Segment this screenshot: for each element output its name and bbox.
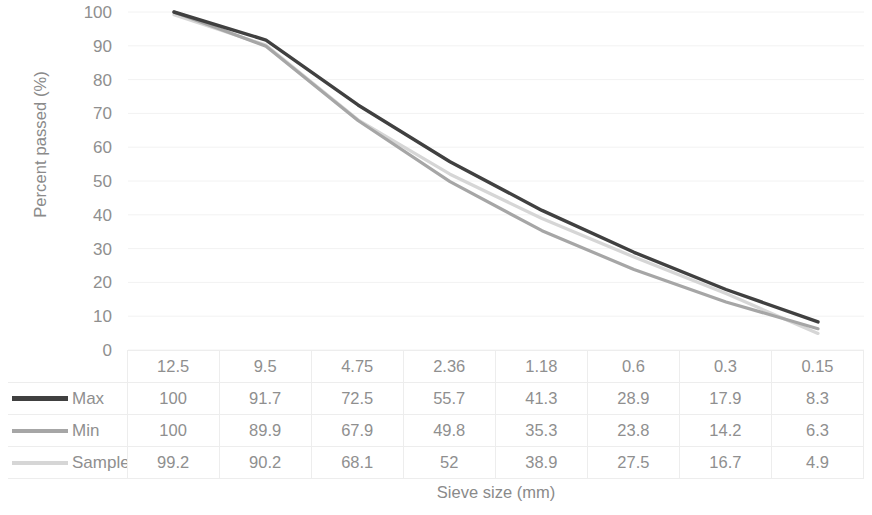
- table-row: Max10091.772.555.741.328.917.98.3: [8, 383, 864, 415]
- table-cell: 38.9: [495, 447, 587, 479]
- y-axis-tick-label: 70: [60, 105, 112, 122]
- table-cell: 72.5: [311, 383, 403, 415]
- table-cell: 55.7: [403, 383, 495, 415]
- table-row: Min10089.967.949.835.323.814.26.3: [8, 415, 864, 447]
- table-cell: 8.3: [771, 383, 863, 415]
- legend-label: Sample: [72, 453, 127, 473]
- y-axis-tick-label: 60: [60, 139, 112, 156]
- column-header: 0.3: [679, 351, 771, 383]
- series-line-min: [174, 12, 818, 329]
- chart-container: Percent passed (%) 100908070605040302010…: [0, 0, 872, 515]
- column-header: 0.6: [587, 351, 679, 383]
- legend-entry-sample[interactable]: Sample: [8, 447, 127, 479]
- table-cell: 6.3: [771, 415, 863, 447]
- series-line-max: [174, 12, 818, 322]
- table-cell: 67.9: [311, 415, 403, 447]
- data-table-grid: 12.59.54.752.361.180.60.30.15Max10091.77…: [8, 350, 864, 479]
- data-table: 12.59.54.752.361.180.60.30.15Max10091.77…: [8, 350, 864, 478]
- table-cell: 27.5: [587, 447, 679, 479]
- legend-label: Min: [72, 421, 99, 441]
- table-cell: 91.7: [219, 383, 311, 415]
- table-cell: 52: [403, 447, 495, 479]
- y-axis-tick-label: 50: [60, 173, 112, 190]
- column-header: 0.15: [771, 351, 863, 383]
- table-cell: 100: [127, 415, 219, 447]
- table-cell: 23.8: [587, 415, 679, 447]
- table-cell: 100: [127, 383, 219, 415]
- table-cell: 14.2: [679, 415, 771, 447]
- column-header: 1.18: [495, 351, 587, 383]
- legend-swatch-min: [12, 429, 68, 433]
- y-axis-tick-label: 100: [60, 4, 112, 21]
- y-axis-tick-label: 30: [60, 240, 112, 257]
- x-axis-title: Sieve size (mm): [128, 483, 864, 502]
- table-cell: 99.2: [127, 447, 219, 479]
- table-cell: 35.3: [495, 415, 587, 447]
- y-axis-title: Percent passed (%): [31, 25, 50, 265]
- y-axis-tick-label: 40: [60, 206, 112, 223]
- table-cell: 28.9: [587, 383, 679, 415]
- table-header-row: 12.59.54.752.361.180.60.30.15: [8, 351, 864, 383]
- legend-swatch-max: [12, 396, 68, 401]
- table-cell: 4.9: [771, 447, 863, 479]
- column-header: 12.5: [127, 351, 219, 383]
- plot-area: [128, 12, 864, 350]
- table-cell: 90.2: [219, 447, 311, 479]
- legend-entry-min[interactable]: Min: [8, 415, 127, 447]
- y-axis-tick-label: 80: [60, 71, 112, 88]
- y-axis-tick-label: 20: [60, 274, 112, 291]
- legend-entry-max[interactable]: Max: [8, 383, 127, 415]
- column-header: 2.36: [403, 351, 495, 383]
- plot-lines-svg: [128, 12, 864, 350]
- column-header: 9.5: [219, 351, 311, 383]
- legend-swatch-sample: [12, 461, 68, 465]
- table-cell: 68.1: [311, 447, 403, 479]
- table-row: Sample99.290.268.15238.927.516.74.9: [8, 447, 864, 479]
- table-cell: 17.9: [679, 383, 771, 415]
- table-cell: 41.3: [495, 383, 587, 415]
- legend-label: Max: [72, 389, 104, 409]
- table-cell: 49.8: [403, 415, 495, 447]
- table-cell: 89.9: [219, 415, 311, 447]
- table-cell: 16.7: [679, 447, 771, 479]
- y-axis-tick-label: 10: [60, 308, 112, 325]
- table-corner-cell: [8, 351, 127, 383]
- y-axis-tick-labels: 1009080706050403020100: [60, 0, 112, 355]
- series-line-sample: [174, 15, 818, 334]
- column-header: 4.75: [311, 351, 403, 383]
- y-axis-tick-label: 90: [60, 37, 112, 54]
